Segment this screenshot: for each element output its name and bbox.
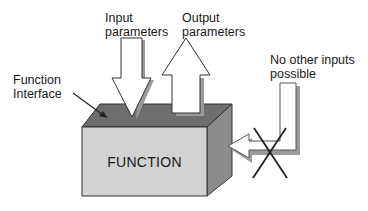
input-parameters-label: Input parameters [105,11,168,39]
no-other-inputs-label: No other inputs possible [270,53,355,81]
output-parameters-label: Output parameters [182,11,245,39]
function-interface-label: Function Interface [13,73,62,101]
function-label: FUNCTION [82,127,207,196]
blocked-input-arrow-icon [228,83,300,163]
